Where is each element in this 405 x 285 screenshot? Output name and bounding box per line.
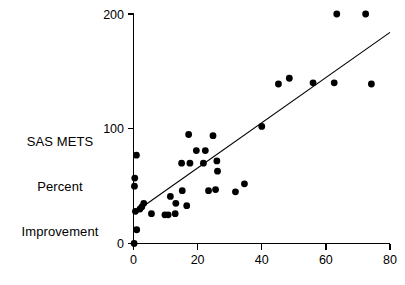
data-point	[275, 81, 282, 88]
y-tick-label: 200	[103, 8, 124, 22]
data-point	[193, 147, 200, 154]
data-point	[212, 186, 219, 193]
data-point	[172, 200, 179, 207]
x-tick-label: 80	[383, 253, 397, 267]
regression-line-path	[134, 32, 390, 212]
plot-area: 0100200 020406080	[0, 0, 405, 285]
data-point	[333, 11, 340, 18]
data-point	[183, 202, 190, 209]
data-point	[362, 11, 369, 18]
y-axis-ticks: 0100200	[103, 8, 133, 252]
data-point	[165, 211, 172, 218]
data-point	[140, 200, 147, 207]
data-point	[214, 168, 221, 175]
data-point	[232, 188, 239, 195]
x-tick-label: 20	[191, 253, 205, 267]
x-tick-label: 40	[255, 253, 269, 267]
data-point	[368, 81, 375, 88]
data-point	[172, 210, 179, 217]
data-point	[213, 157, 220, 164]
data-point	[167, 193, 174, 200]
data-point	[258, 123, 265, 130]
regression-line	[134, 32, 390, 212]
data-point	[205, 187, 212, 194]
data-point	[133, 226, 140, 233]
data-point	[210, 132, 217, 139]
data-point	[241, 180, 248, 187]
y-tick-label: 0	[117, 237, 124, 251]
data-point	[200, 160, 207, 167]
data-point	[185, 131, 192, 138]
data-point	[131, 183, 138, 190]
data-point	[310, 79, 317, 86]
data-point	[187, 160, 194, 167]
data-point	[202, 147, 209, 154]
x-axis-ticks: 020406080	[130, 244, 397, 268]
plot-canvas: 0100200 020406080	[0, 0, 405, 285]
scatter-plot-figure: SAS METS Percent Improvement 0100200 020…	[0, 0, 405, 285]
data-point	[178, 160, 185, 167]
data-point	[286, 75, 293, 82]
data-point	[179, 187, 186, 194]
data-point	[133, 152, 140, 159]
data-point	[331, 79, 338, 86]
x-tick-label: 0	[130, 253, 137, 267]
data-point	[131, 175, 138, 182]
data-point	[131, 240, 138, 247]
data-point	[148, 210, 155, 217]
x-tick-label: 60	[319, 253, 333, 267]
y-tick-label: 100	[103, 122, 124, 136]
